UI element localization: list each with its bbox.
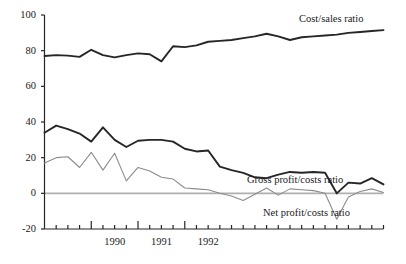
y-tick-label: 0 — [8, 188, 36, 199]
series-line-0 — [45, 30, 384, 61]
series-annotation-label: Gross profit/costs ratio — [247, 175, 343, 186]
y-tick-label: 60 — [8, 81, 36, 92]
chart-container: 100806040200-20 199019911992 Cost/sales … — [0, 0, 406, 264]
line-chart-plot — [0, 0, 406, 264]
x-tick-label: 1992 — [181, 237, 235, 248]
y-tick-label: 40 — [8, 117, 36, 128]
series-annotation-label: Cost/sales ratio — [299, 14, 363, 25]
y-tick-label: 80 — [8, 46, 36, 57]
chart-axes — [45, 15, 384, 229]
data-series-group — [45, 30, 384, 219]
y-tick-label: 20 — [8, 153, 36, 164]
axis-ticks — [41, 15, 384, 229]
y-tick-label: 100 — [8, 10, 36, 21]
series-annotation-label: Net profit/costs ratio — [263, 208, 350, 219]
y-tick-label: -20 — [8, 224, 36, 235]
